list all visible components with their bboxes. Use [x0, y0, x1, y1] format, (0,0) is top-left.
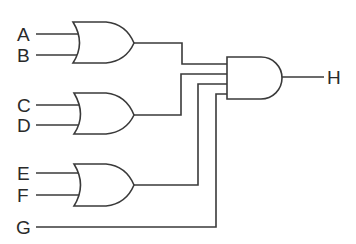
label-e: E: [17, 164, 30, 183]
logic-circuit-diagram: A B C D E F G H: [0, 0, 356, 244]
label-h: H: [327, 68, 341, 87]
wire-or2-to-and: [134, 74, 227, 115]
wire-or1-to-and: [134, 43, 227, 64]
label-c: C: [17, 96, 31, 115]
label-d: D: [17, 116, 31, 135]
or-gate-3: [74, 164, 134, 206]
label-g: G: [16, 218, 31, 237]
and-gate: [227, 57, 282, 99]
circuit-drawing: [0, 0, 356, 244]
or-gate-1: [73, 22, 134, 63]
label-b: B: [17, 46, 30, 65]
label-f: F: [17, 186, 29, 205]
label-a: A: [17, 25, 30, 44]
or-gate-2: [74, 93, 134, 134]
